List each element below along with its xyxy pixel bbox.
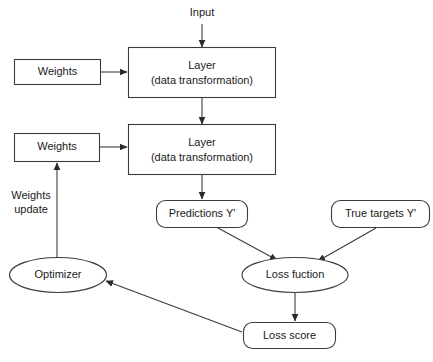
node-loss-function-label: Loss fuction (266, 268, 325, 280)
node-weights-top-label: Weights (38, 65, 78, 77)
node-layer-top-label-line1: Layer (188, 59, 216, 71)
node-layer-bottom-label-line1: Layer (188, 136, 216, 148)
node-true-targets-label: True targets Y' (345, 207, 416, 219)
node-predictions[interactable]: Predictions Y' (157, 201, 248, 228)
node-weights-update-label: Weights update (11, 189, 51, 215)
node-layer-bottom-label-line2: (data transformation) (151, 151, 253, 163)
node-layer-bottom[interactable]: Layer (data transformation) (129, 125, 276, 175)
node-predictions-label: Predictions Y' (169, 207, 236, 219)
edge-loss-score-to-optimizer (106, 281, 242, 332)
node-input-label: Input (190, 6, 214, 18)
node-true-targets[interactable]: True targets Y' (332, 201, 430, 228)
node-loss-score-label: Loss score (263, 329, 316, 341)
node-weights-bottom-label: Weights (37, 140, 77, 152)
node-optimizer-label: Optimizer (34, 268, 81, 280)
edge-true-targets-to-loss-function (318, 228, 376, 261)
node-weights-top[interactable]: Weights (15, 60, 101, 85)
node-input: Input (190, 6, 214, 18)
node-optimizer[interactable]: Optimizer (10, 258, 107, 293)
node-layer-top-label-line2: (data transformation) (151, 74, 253, 86)
diagram-canvas: Input Weights Layer (data transformation… (0, 0, 433, 362)
node-loss-function[interactable]: Loss fuction (242, 258, 348, 293)
node-loss-score[interactable]: Loss score (244, 323, 336, 349)
node-weights-bottom[interactable]: Weights (15, 134, 100, 162)
network-training-loop-diagram: Input Weights Layer (data transformation… (0, 0, 433, 362)
weights-update-label-line1: Weights (11, 189, 51, 201)
weights-update-label-line2: update (14, 203, 48, 215)
node-layer-top[interactable]: Layer (data transformation) (129, 48, 276, 98)
edge-predictions-to-loss-function (218, 228, 277, 260)
